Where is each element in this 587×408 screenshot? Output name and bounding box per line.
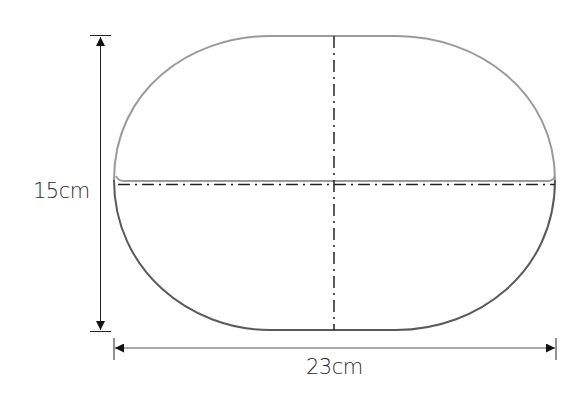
seam-line	[116, 176, 555, 181]
oval-dimension-diagram	[0, 0, 587, 408]
width-dimension-label: 23cm	[306, 355, 363, 379]
height-dimension-label: 15cm	[33, 179, 90, 203]
